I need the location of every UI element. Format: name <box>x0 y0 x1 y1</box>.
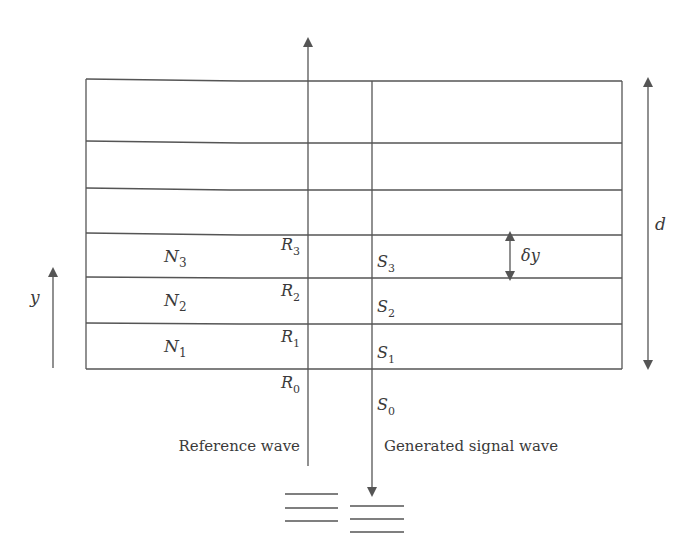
layered-medium-diagram: N3 N2 N1 R3 R2 R1 R0 S3 S2 S1 S0 Referen… <box>0 0 698 556</box>
signal-wave-label: Generated signal wave <box>384 437 558 455</box>
signal-point-s2: S2 <box>377 297 395 320</box>
reference-point-r3: R3 <box>280 235 300 258</box>
layer-boundary-1 <box>86 323 622 324</box>
signal-point-s3: S3 <box>377 252 395 275</box>
reference-point-r2: R2 <box>280 281 300 304</box>
signal-point-s0: S0 <box>377 395 395 418</box>
layer-stack <box>86 79 622 369</box>
reference-point-r0: R0 <box>280 373 300 396</box>
reference-point-r1: R1 <box>280 327 300 350</box>
thickness-label: d <box>655 214 666 234</box>
reference-wave-label: Reference wave <box>179 437 301 455</box>
layer-boundary-5 <box>86 141 622 143</box>
layer-label-n1: N1 <box>163 336 187 360</box>
layer-boundary-top <box>86 79 622 81</box>
layer-spacing-label: δy <box>521 246 541 265</box>
bottom-dash-marks <box>285 494 404 532</box>
layer-boundary-4 <box>86 188 622 190</box>
layer-boundary-3 <box>86 233 622 235</box>
layer-label-n2: N2 <box>163 290 187 314</box>
layer-boundary-2 <box>86 277 622 278</box>
signal-point-s1: S1 <box>377 343 395 366</box>
layer-label-n3: N3 <box>163 246 187 270</box>
y-axis-label: y <box>29 287 40 307</box>
